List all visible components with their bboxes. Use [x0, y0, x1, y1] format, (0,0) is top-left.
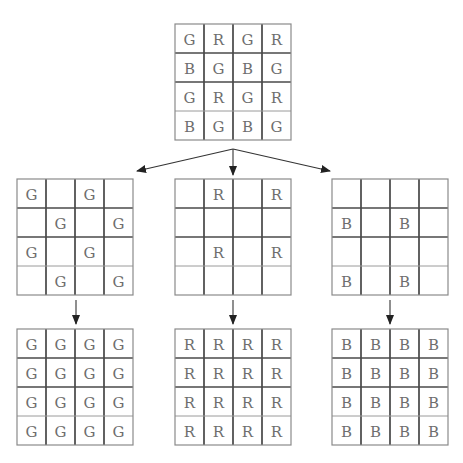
cell-label: G [26, 336, 38, 354]
grid-cell [75, 266, 104, 295]
cell-label: G [55, 394, 67, 412]
cell-label: R [213, 336, 225, 354]
cell-label: G [213, 118, 225, 136]
cell-label: G [26, 394, 38, 412]
cell-label: G [84, 186, 96, 204]
cell-label: R [213, 31, 225, 49]
grids-layer: GRGRBGBGGRGRBGBGGGGGGGGGRRRRBBBBGGGGGGGG… [17, 24, 448, 445]
cell-label: R [242, 365, 254, 383]
grid-cell [75, 208, 104, 237]
grid-cell [233, 179, 262, 208]
cell-label: B [428, 365, 439, 383]
cell-label: G [55, 215, 67, 233]
cell-label: G [213, 60, 225, 78]
grid-cell [419, 266, 448, 295]
grid-cell [390, 237, 419, 266]
cell-label: R [213, 394, 225, 412]
grid-cell [332, 179, 361, 208]
cell-label: B [242, 118, 253, 136]
cell-label: B [399, 215, 410, 233]
cell-label: R [271, 423, 283, 441]
arrow-to-green-icon [137, 149, 233, 171]
grid-green-sampled: GGGGGGGG [17, 179, 133, 295]
cell-label: G [84, 244, 96, 262]
grid-cell [419, 179, 448, 208]
demosaic-diagram: GRGRBGBGGRGRBGBGGGGGGGGGRRRRBBBBGGGGGGGG… [0, 0, 463, 463]
cell-label: G [26, 423, 38, 441]
cell-label: G [184, 89, 196, 107]
cell-label: B [341, 365, 352, 383]
cell-label: G [55, 365, 67, 383]
grid-cell [332, 237, 361, 266]
cell-label: R [271, 89, 283, 107]
grid-cell [204, 208, 233, 237]
cell-label: G [113, 394, 125, 412]
cell-label: G [242, 89, 254, 107]
cell-label: B [341, 215, 352, 233]
grid-cell [233, 208, 262, 237]
grid-cell [390, 179, 419, 208]
cell-label: B [184, 60, 195, 78]
cell-label: R [213, 244, 225, 262]
cell-label: R [271, 394, 283, 412]
grid-green-full: GGGGGGGGGGGGGGGG [17, 329, 133, 445]
cell-label: G [26, 186, 38, 204]
grid-blue-full: BBBBBBBBBBBBBBBB [332, 329, 448, 445]
cell-label: G [84, 336, 96, 354]
cell-label: G [84, 365, 96, 383]
cell-label: R [242, 423, 254, 441]
grid-cell [17, 208, 46, 237]
cell-label: B [341, 394, 352, 412]
grid-cell [361, 237, 390, 266]
grid-cell [46, 179, 75, 208]
cell-label: B [399, 336, 410, 354]
cell-label: G [271, 60, 283, 78]
cell-label: R [271, 186, 283, 204]
cell-label: R [271, 31, 283, 49]
cell-label: B [341, 273, 352, 291]
cell-label: R [271, 365, 283, 383]
grid-cell [361, 179, 390, 208]
cell-label: G [271, 118, 283, 136]
cell-label: B [341, 336, 352, 354]
cell-label: B [184, 118, 195, 136]
grid-cell [175, 266, 204, 295]
cell-label: R [242, 394, 254, 412]
cell-label: R [184, 394, 196, 412]
grid-cell [361, 208, 390, 237]
cell-label: G [113, 336, 125, 354]
grid-cell [46, 237, 75, 266]
grid-cell [175, 208, 204, 237]
cell-label: G [242, 31, 254, 49]
grid-cell [104, 179, 133, 208]
cell-label: B [399, 394, 410, 412]
cell-label: R [271, 244, 283, 262]
grid-red-sampled: RRRR [175, 179, 291, 295]
cell-label: G [55, 423, 67, 441]
cell-label: R [184, 336, 196, 354]
grid-cell [175, 179, 204, 208]
cell-label: B [370, 336, 381, 354]
cell-label: B [428, 336, 439, 354]
grid-cell [104, 237, 133, 266]
grid-blue-sampled: BBBB [332, 179, 448, 295]
cell-label: G [55, 336, 67, 354]
grid-cell [419, 208, 448, 237]
grid-cell [419, 237, 448, 266]
cell-label: R [184, 365, 196, 383]
cell-label: R [271, 336, 283, 354]
cell-label: R [184, 423, 196, 441]
cell-label: G [55, 273, 67, 291]
cell-label: B [428, 394, 439, 412]
grid-red-full: RRRRRRRRRRRRRRRR [175, 329, 291, 445]
grid-cell [361, 266, 390, 295]
cell-label: B [399, 365, 410, 383]
cell-label: G [113, 423, 125, 441]
grid-cell [262, 266, 291, 295]
grid-cell [233, 266, 262, 295]
cell-label: G [26, 365, 38, 383]
grid-bayer-mosaic: GRGRBGBGGRGRBGBG [175, 24, 291, 140]
cell-label: B [341, 423, 352, 441]
cell-label: B [370, 394, 381, 412]
cell-label: G [184, 31, 196, 49]
